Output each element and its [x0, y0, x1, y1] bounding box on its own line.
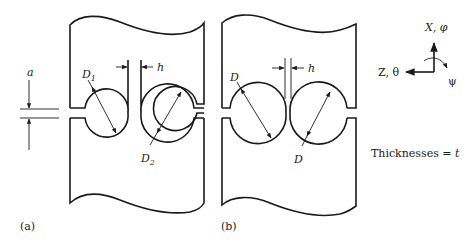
diameter-d2-arrow [157, 92, 181, 133]
panel-a-circle-1 [70, 60, 128, 113]
rotation-arrow-icon [424, 58, 447, 68]
panel-b-circle-1 [222, 82, 286, 143]
panel-a: a h D1 D2 (a) [20, 16, 204, 233]
dim-a-label: a [27, 66, 34, 79]
panel-b-diameter-2-arrow [307, 92, 330, 136]
panel-b-circle-2 [290, 82, 347, 144]
coordinate-axes: X, φ Z, θ ψ [378, 21, 457, 88]
flexure-hinge-diagram: a h D1 D2 (a) h D D ( [0, 0, 474, 247]
diameter-d2-label: D2 [140, 152, 155, 167]
diameter-d1-arrow [92, 87, 116, 133]
thickness-note: Thicknesses = t [371, 147, 460, 160]
dim-h-label: h [157, 61, 164, 74]
panel-a-circle-1-lower [70, 113, 128, 137]
panel-b-diameter-1-arrow [241, 89, 271, 138]
diameter-d1-label: D1 [81, 68, 96, 83]
panel-b: h D D (b) [221, 15, 356, 233]
panel-b-diameter-1-label: D [229, 71, 239, 84]
panel-b-body-top [222, 15, 356, 108]
panel-b-body-bottom [222, 118, 356, 215]
panel-a-label: (a) [20, 220, 35, 233]
panel-a-circle-2-lower [141, 113, 204, 142]
x-axis-label: X, φ [424, 21, 448, 34]
z-axis-label: Z, θ [378, 66, 399, 79]
panel-b-label: (b) [221, 220, 237, 233]
panel-a-body-bottom [70, 118, 204, 213]
rotation-label: ψ [448, 75, 457, 88]
panel-b-diameter-2-label: D [293, 153, 303, 166]
panel-b-dim-h-label: h [308, 62, 315, 75]
